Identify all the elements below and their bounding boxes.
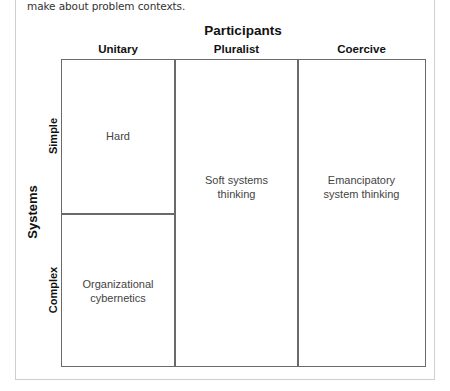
- cell-line: thinking: [175, 187, 298, 201]
- cell-line: Organizational: [61, 277, 175, 291]
- cell-line: Emancipatory: [298, 173, 425, 187]
- column-header-coercive: Coercive: [298, 43, 425, 55]
- column-divider: [297, 59, 299, 367]
- cell-soft-systems-thinking: Soft systems thinking: [175, 173, 298, 201]
- row-header-complex: Complex: [47, 267, 59, 313]
- cell-line: Soft systems: [175, 173, 298, 187]
- row-header-simple: Simple: [47, 118, 59, 154]
- cell-organizational-cybernetics: Organizational cybernetics: [61, 277, 175, 305]
- cell-hard-label: Hard: [106, 130, 130, 142]
- column-header-pluralist: Pluralist: [175, 43, 298, 55]
- column-header-unitary: Unitary: [61, 43, 175, 55]
- cell-line: system thinking: [298, 187, 425, 201]
- cell-hard: Hard: [61, 129, 175, 143]
- row-divider: [61, 213, 175, 215]
- cell-line: cybernetics: [61, 291, 175, 305]
- systems-axis-title: Systems: [25, 185, 40, 238]
- caption-text: make about problem contexts.: [27, 0, 185, 12]
- participants-axis-title: Participants: [61, 23, 425, 38]
- cell-emancipatory-system-thinking: Emancipatory system thinking: [298, 173, 425, 201]
